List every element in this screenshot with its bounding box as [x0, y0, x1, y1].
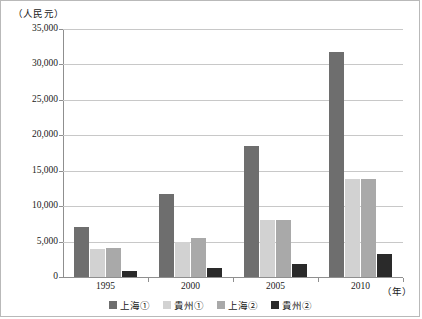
y-axis-tick-mark: [59, 206, 63, 207]
bar: [191, 238, 206, 277]
legend-item[interactable]: 貴州②: [271, 298, 312, 312]
y-axis-tick-mark: [59, 64, 63, 65]
y-axis-tick-label: 30,000: [32, 60, 58, 70]
bar: [361, 179, 376, 277]
legend-swatch-icon: [163, 301, 171, 309]
y-axis-tick-label: 25,000: [32, 95, 58, 105]
y-axis-tick-mark: [59, 277, 63, 278]
y-axis-tick-mark: [59, 171, 63, 172]
chart-legend: 上海①貴州①上海②貴州②: [1, 298, 419, 312]
legend-item[interactable]: 上海②: [217, 298, 258, 312]
bar: [90, 249, 105, 277]
y-axis-tick-label: 15,000: [32, 166, 58, 176]
legend-label: 上海①: [120, 298, 150, 312]
legend-label: 上海②: [228, 298, 258, 312]
y-axis-tick-label: 20,000: [32, 131, 58, 141]
x-axis-tick-mark: [233, 278, 234, 282]
legend-item[interactable]: 上海①: [109, 298, 150, 312]
legend-label: 貴州②: [282, 298, 312, 312]
x-axis-tick-mark: [403, 278, 404, 282]
x-axis-tick-mark: [148, 278, 149, 282]
bar: [329, 52, 344, 277]
plot-area: 05,00010,00015,00020,00025,00030,00035,0…: [63, 29, 403, 278]
legend-label: 貴州①: [174, 298, 204, 312]
bar-group: [242, 29, 310, 277]
bar: [159, 194, 174, 277]
x-axis-tick-label: 2005: [266, 281, 285, 291]
y-axis-tick-label: 0: [53, 272, 58, 282]
bar: [292, 264, 307, 277]
bar-group: [72, 29, 140, 277]
x-axis-tick-mark: [318, 278, 319, 282]
bar: [260, 220, 275, 277]
legend-item[interactable]: 貴州①: [163, 298, 204, 312]
bar: [122, 271, 137, 277]
y-axis-tick-mark: [59, 242, 63, 243]
legend-swatch-icon: [109, 301, 117, 309]
y-axis-tick-mark: [59, 100, 63, 101]
x-axis-tick-label: 2000: [181, 281, 200, 291]
y-axis-unit-label: （人民元）: [13, 6, 64, 20]
bar: [175, 242, 190, 277]
legend-swatch-icon: [217, 301, 225, 309]
bar: [74, 227, 89, 277]
y-axis-tick-label: 10,000: [32, 201, 58, 211]
y-axis-tick-label: 5,000: [37, 237, 58, 247]
y-axis-tick-label: 35,000: [32, 24, 58, 34]
bar: [244, 146, 259, 277]
bar-group: [327, 29, 395, 277]
bar: [207, 268, 222, 277]
x-axis-tick-label: 1995: [96, 281, 115, 291]
bar-group: [157, 29, 225, 277]
legend-swatch-icon: [271, 301, 279, 309]
bar: [106, 248, 121, 277]
bar: [345, 179, 360, 277]
chart-figure: （人民元） （年） 05,00010,00015,00020,00025,000…: [0, 0, 420, 317]
y-axis-tick-mark: [59, 29, 63, 30]
x-axis-tick-label: 2010: [351, 281, 370, 291]
bar: [377, 254, 392, 277]
y-axis-tick-mark: [59, 135, 63, 136]
bar: [276, 220, 291, 277]
x-axis-unit-label: （年）: [382, 284, 412, 298]
